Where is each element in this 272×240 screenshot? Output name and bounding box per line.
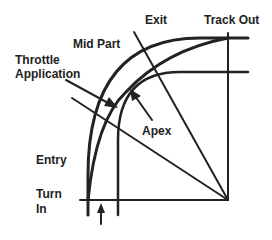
turn-in-arrow-head xyxy=(97,203,105,213)
label-exit: Exit xyxy=(145,13,167,27)
label-turn-2: In xyxy=(36,202,47,216)
label-entry: Entry xyxy=(36,153,67,167)
label-track-out: Track Out xyxy=(204,13,259,27)
label-mid-part: Mid Part xyxy=(73,37,120,51)
label-turn-1: Turn xyxy=(36,187,62,201)
racing-line xyxy=(88,38,228,200)
apex-arrow-shaft xyxy=(135,96,152,120)
label-apex: Apex xyxy=(142,124,171,138)
label-throttle-1: Throttle xyxy=(15,53,60,67)
apex-arrow-head xyxy=(130,89,141,101)
label-throttle-2: Application xyxy=(15,67,80,81)
